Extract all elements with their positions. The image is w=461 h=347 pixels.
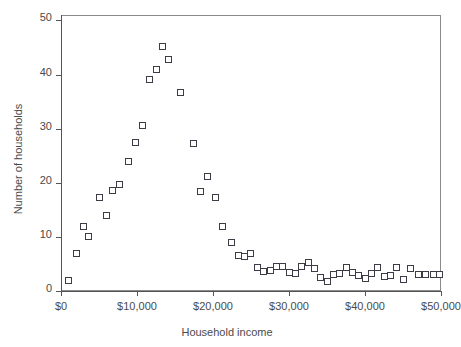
data-point <box>103 212 110 219</box>
data-point <box>336 270 343 277</box>
data-point <box>132 139 139 146</box>
x-tick-label: $10,000 <box>117 300 157 312</box>
data-point <box>159 43 166 50</box>
data-point <box>292 270 299 277</box>
x-tick-mark <box>365 291 366 296</box>
data-point <box>219 223 226 230</box>
x-tick-mark <box>441 291 442 296</box>
data-point <box>212 194 219 201</box>
x-tick-label: $0 <box>55 300 67 312</box>
data-point <box>400 276 407 283</box>
data-point <box>65 277 72 284</box>
data-point <box>96 194 103 201</box>
x-tick-label: $50,000 <box>421 300 461 312</box>
data-point <box>407 265 414 272</box>
data-point <box>204 173 211 180</box>
x-tick-mark <box>289 291 290 296</box>
x-tick-mark <box>61 291 62 296</box>
data-point <box>85 233 92 240</box>
data-point <box>80 223 87 230</box>
data-point <box>109 187 116 194</box>
x-tick-mark <box>137 291 138 296</box>
y-tick-label: 50 <box>40 12 52 23</box>
y-axis-title: Number of households <box>12 79 24 239</box>
data-point <box>247 250 254 257</box>
data-point <box>422 271 429 278</box>
x-tick-label: $40,000 <box>345 300 385 312</box>
y-tick-label: 10 <box>40 229 52 240</box>
data-point <box>146 76 153 83</box>
x-axis-line <box>61 291 442 292</box>
data-point <box>153 66 160 73</box>
x-tick-label: $20,000 <box>193 300 233 312</box>
data-point <box>415 271 422 278</box>
y-tick-label: 30 <box>40 121 52 132</box>
x-axis-title: Household income <box>0 326 454 338</box>
data-point <box>125 158 132 165</box>
y-tick-label: 40 <box>40 67 52 78</box>
x-tick-mark <box>213 291 214 296</box>
y-tick-label: 20 <box>40 175 52 186</box>
data-point <box>393 264 400 271</box>
x-tick-label: $30,000 <box>269 300 309 312</box>
data-point <box>436 271 443 278</box>
data-point <box>165 56 172 63</box>
data-point <box>116 181 123 188</box>
data-point <box>228 239 235 246</box>
data-point <box>324 278 331 285</box>
data-point <box>197 188 204 195</box>
data-point <box>177 89 184 96</box>
data-point <box>139 122 146 129</box>
data-point <box>311 265 318 272</box>
y-tick-label: 0 <box>46 283 52 294</box>
data-point <box>73 250 80 257</box>
data-point <box>374 264 381 271</box>
data-point <box>387 272 394 279</box>
data-point <box>190 140 197 147</box>
